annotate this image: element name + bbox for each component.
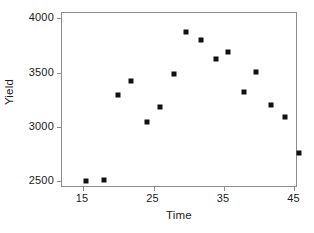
data-point — [116, 92, 121, 97]
y-axis-tick-label: 3500 — [29, 66, 54, 78]
x-axis-tick — [154, 186, 155, 191]
data-point — [241, 89, 246, 94]
data-point — [102, 178, 107, 183]
data-point — [268, 102, 273, 107]
x-axis-tick-labels: 15253545 — [61, 192, 297, 208]
data-point — [144, 119, 149, 124]
plot-frame — [61, 12, 297, 187]
data-point — [172, 71, 177, 76]
data-point — [296, 150, 301, 155]
y-axis-tick — [57, 73, 62, 74]
x-axis-tick-label: 25 — [146, 192, 159, 204]
data-point — [199, 37, 204, 42]
y-axis-tick-label: 2500 — [29, 174, 54, 186]
scatter-plot-figure: 2500300035004000 15253545 Yield Time — [0, 0, 314, 233]
y-axis-title: Yield — [3, 70, 15, 114]
data-point — [225, 49, 230, 54]
x-axis-tick — [294, 186, 295, 191]
y-axis-tick-labels: 2500300035004000 — [20, 12, 54, 187]
data-point — [282, 115, 287, 120]
x-axis-tick — [83, 186, 84, 191]
y-axis-tick — [57, 127, 62, 128]
y-axis-tick — [57, 181, 62, 182]
y-axis-tick — [57, 18, 62, 19]
data-point — [183, 30, 188, 35]
x-axis-tick-label: 15 — [76, 192, 89, 204]
data-point — [129, 79, 134, 84]
y-axis-tick-label: 3000 — [29, 120, 54, 132]
x-axis-tick-label: 35 — [217, 192, 230, 204]
x-axis-title: Time — [61, 209, 297, 221]
data-point — [157, 105, 162, 110]
x-axis-tick — [224, 186, 225, 191]
data-point — [254, 70, 259, 75]
data-point — [83, 178, 88, 183]
data-point — [213, 56, 218, 61]
x-axis-tick-label: 45 — [287, 192, 300, 204]
y-axis-tick-label: 4000 — [29, 11, 54, 23]
plot-area — [62, 13, 296, 186]
